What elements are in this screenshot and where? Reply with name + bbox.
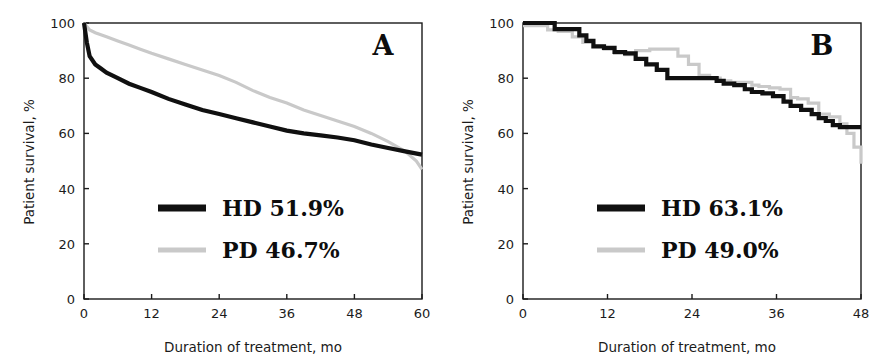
panel-b-plot: 012243648020406080100 B Duration of trea…	[439, 0, 878, 364]
x-axis-title: Duration of treatment, mo	[164, 339, 342, 355]
x-tick-label: 12	[143, 306, 160, 321]
y-tick-label: 20	[58, 237, 75, 252]
legend-label: PD 46.7%	[222, 237, 340, 263]
x-axis-title: Duration of treatment, mo	[598, 339, 776, 355]
y-tick-label: 40	[497, 182, 514, 197]
y-tick-label: 80	[58, 71, 75, 86]
y-tick-label: 0	[67, 292, 75, 307]
panel-b-legend: HD 63.1%PD 49.0%	[597, 195, 783, 263]
x-tick-label: 36	[768, 306, 785, 321]
y-tick-label: 80	[497, 71, 514, 86]
panel-a: 01224364860020406080100 A Duration of tr…	[0, 0, 439, 364]
panel-letter-b: B	[811, 30, 834, 61]
y-tick-label: 0	[506, 292, 514, 307]
panel-b: 012243648020406080100 B Duration of trea…	[439, 0, 878, 364]
y-tick-label: 100	[489, 16, 514, 31]
y-tick-label: 60	[497, 126, 514, 141]
legend-label: PD 49.0%	[661, 237, 779, 263]
y-axis-title: Patient survival, %	[21, 99, 37, 225]
panel-a-plot: 01224364860020406080100 A Duration of tr…	[0, 0, 439, 364]
y-tick-label: 40	[58, 182, 75, 197]
x-tick-label: 36	[279, 306, 296, 321]
x-tick-label: 60	[414, 306, 431, 321]
survival-figure: 01224364860020406080100 A Duration of tr…	[0, 0, 878, 364]
x-tick-label: 48	[853, 306, 870, 321]
x-tick-label: 0	[519, 306, 527, 321]
x-tick-label: 24	[211, 306, 228, 321]
legend-label: HD 51.9%	[222, 195, 344, 221]
legend-label: HD 63.1%	[661, 195, 783, 221]
panel-a-ticks: 01224364860020406080100	[50, 16, 430, 321]
y-axis-title: Patient survival, %	[460, 99, 476, 225]
survival-curve-pd	[84, 23, 422, 169]
y-tick-label: 20	[497, 237, 514, 252]
x-tick-label: 12	[599, 306, 616, 321]
panel-letter-a: A	[372, 30, 395, 61]
y-tick-label: 100	[50, 16, 75, 31]
x-tick-label: 24	[684, 306, 701, 321]
panel-a-legend: HD 51.9%PD 46.7%	[158, 195, 344, 263]
x-tick-label: 0	[80, 306, 88, 321]
panel-b-ticks: 012243648020406080100	[489, 16, 869, 321]
y-tick-label: 60	[58, 126, 75, 141]
x-tick-label: 48	[346, 306, 363, 321]
panel-a-curves	[84, 23, 422, 169]
